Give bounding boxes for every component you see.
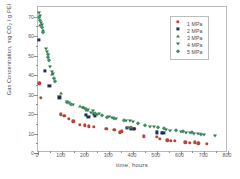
y-tick-label: 0 bbox=[31, 150, 34, 156]
x-tick-minor bbox=[121, 151, 122, 153]
legend-marker-icon bbox=[175, 36, 184, 39]
x-tick-minor bbox=[145, 151, 146, 153]
data-point bbox=[87, 124, 90, 127]
y-tick-minor bbox=[36, 143, 38, 144]
y-tick-label: 60 bbox=[28, 33, 34, 39]
data-point bbox=[129, 125, 133, 128]
data-point bbox=[158, 137, 161, 140]
y-axis-label-prefix: Gas Concentration, mg CO bbox=[6, 25, 12, 95]
legend-label: 3 MPa bbox=[187, 35, 203, 41]
data-point bbox=[87, 115, 90, 118]
data-point bbox=[188, 141, 191, 144]
x-tick-label: 800 bbox=[223, 152, 232, 158]
data-point bbox=[100, 113, 104, 117]
data-point bbox=[131, 121, 135, 124]
gas-concentration-scatter-chart: 010203040506070 time, hours Gas Concentr… bbox=[0, 0, 240, 179]
legend-item-4-mpa[interactable]: 4 MPa bbox=[175, 42, 203, 49]
y-tick-minor bbox=[36, 46, 38, 47]
legend-marker-icon bbox=[175, 44, 184, 47]
y-tick-minor bbox=[36, 124, 38, 125]
data-point bbox=[184, 141, 187, 144]
data-point bbox=[156, 125, 160, 129]
y-tick bbox=[34, 17, 38, 18]
y-tick-minor bbox=[36, 65, 38, 66]
data-point bbox=[143, 123, 147, 127]
y-tick bbox=[34, 114, 38, 115]
y-tick bbox=[34, 95, 38, 96]
legend-marker-icon bbox=[175, 51, 184, 54]
x-tick-minor bbox=[50, 151, 51, 153]
x-tick-label: 500 bbox=[151, 152, 160, 158]
data-point bbox=[213, 134, 217, 137]
legend-item-5-mpa[interactable]: 5 MPa bbox=[175, 49, 203, 56]
legend-label: 1 MPa bbox=[187, 21, 203, 27]
data-point bbox=[202, 134, 206, 137]
data-point bbox=[105, 127, 108, 130]
y-tick-label: 70 bbox=[28, 14, 34, 20]
y-tick-minor bbox=[36, 104, 38, 105]
legend-marker-icon bbox=[175, 29, 184, 32]
x-axis-label: time, hours bbox=[37, 162, 227, 168]
y-tick bbox=[34, 56, 38, 57]
legend-marker-icon bbox=[175, 22, 184, 25]
x-tick-label: 400 bbox=[128, 152, 137, 158]
y-tick bbox=[34, 134, 38, 135]
data-point bbox=[53, 79, 57, 83]
y-tick-label: 30 bbox=[28, 92, 34, 98]
y-tick bbox=[34, 36, 38, 37]
data-point bbox=[148, 125, 152, 128]
data-point bbox=[197, 142, 200, 145]
legend: 1 MPa2 MPa3 MPa4 MPa5 MPa bbox=[170, 16, 209, 60]
data-point bbox=[59, 92, 63, 95]
y-tick-label: 50 bbox=[28, 53, 34, 59]
legend-label: 5 MPa bbox=[187, 49, 203, 55]
x-tick-label: 0 bbox=[36, 152, 39, 158]
x-tick-label: 300 bbox=[104, 152, 113, 158]
y-axis-label-subscript: 2 bbox=[8, 23, 13, 25]
y-tick-minor bbox=[36, 85, 38, 86]
y-tick-label: 20 bbox=[28, 111, 34, 117]
x-tick-label: 100 bbox=[56, 152, 65, 158]
data-point bbox=[58, 96, 61, 99]
x-tick-minor bbox=[74, 151, 75, 153]
y-tick-minor bbox=[36, 26, 38, 27]
data-point bbox=[92, 125, 95, 128]
data-point bbox=[83, 124, 86, 127]
data-point bbox=[71, 120, 74, 123]
data-point bbox=[48, 58, 52, 62]
legend-label: 2 MPa bbox=[187, 28, 203, 34]
x-tick-minor bbox=[169, 151, 170, 153]
legend-item-2-mpa[interactable]: 2 MPa bbox=[175, 27, 203, 34]
data-point bbox=[37, 38, 40, 41]
data-point bbox=[142, 135, 145, 138]
data-point bbox=[136, 122, 140, 126]
x-tick-minor bbox=[97, 151, 98, 153]
x-tick-minor bbox=[192, 151, 193, 153]
data-point bbox=[39, 96, 42, 99]
legend-label: 4 MPa bbox=[187, 42, 203, 48]
x-tick-label: 700 bbox=[199, 152, 208, 158]
data-point bbox=[44, 69, 47, 72]
data-point bbox=[84, 107, 88, 111]
legend-item-3-mpa[interactable]: 3 MPa bbox=[175, 34, 203, 41]
data-point bbox=[120, 129, 123, 132]
data-point bbox=[67, 117, 70, 120]
data-point bbox=[37, 82, 40, 85]
y-axis-label-suffix: / g PEI bbox=[6, 4, 12, 23]
data-point bbox=[48, 65, 52, 68]
x-tick-label: 200 bbox=[80, 152, 89, 158]
data-point bbox=[78, 123, 81, 126]
data-point bbox=[205, 142, 208, 145]
legend-item-1-mpa[interactable]: 1 MPa bbox=[175, 20, 203, 27]
data-point bbox=[113, 128, 116, 131]
data-point bbox=[173, 139, 176, 142]
y-tick-label: 40 bbox=[28, 72, 34, 78]
data-point bbox=[168, 129, 172, 132]
data-point bbox=[155, 131, 158, 134]
data-point bbox=[48, 84, 51, 87]
data-point bbox=[62, 114, 65, 117]
x-tick-label: 600 bbox=[175, 152, 184, 158]
y-axis-label: Gas Concentration, mg CO2 / g PEI bbox=[6, 0, 13, 115]
y-tick-label: 10 bbox=[28, 131, 34, 137]
data-point bbox=[174, 128, 178, 132]
